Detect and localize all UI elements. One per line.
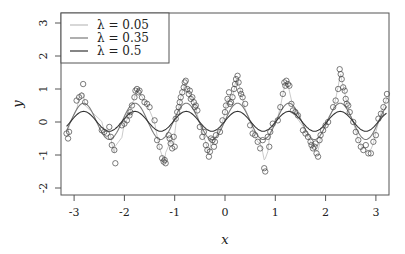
y-tick-label: -1 (37, 150, 50, 161)
x-tick-label: 2 (322, 206, 329, 219)
y-tick-label: 0 (37, 119, 50, 126)
legend: λ = 0.05 λ = 0.35 λ = 0.5 (61, 13, 169, 63)
x-tick-label: 1 (272, 206, 279, 219)
x-tick-label: 0 (222, 206, 229, 219)
scatter-chart: -3-2-10123 -2-10123 x y λ = 0.05 λ = 0.3… (0, 0, 405, 254)
y-tick-label: -2 (37, 183, 50, 194)
x-axis-title: x (221, 232, 229, 247)
legend-label-lambda-035: λ = 0.35 (97, 31, 149, 45)
y-tick-label: 2 (37, 53, 50, 60)
y-tick-label: 3 (37, 20, 50, 27)
y-tick-label: 1 (37, 86, 50, 93)
y-axis-title: y (10, 100, 25, 109)
legend-label-lambda-005: λ = 0.05 (97, 18, 149, 32)
x-tick-label: -1 (169, 206, 180, 219)
x-tick-label: -2 (119, 206, 130, 219)
x-tick-label: 3 (372, 206, 379, 219)
x-tick-label: -3 (69, 206, 80, 219)
legend-label-lambda-05: λ = 0.5 (97, 44, 141, 58)
